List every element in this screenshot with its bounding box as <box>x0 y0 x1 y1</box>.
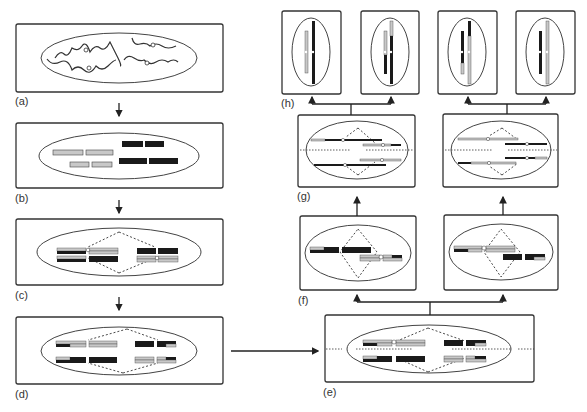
label-f: (f) <box>298 295 308 306</box>
chromatin-strands <box>47 38 178 72</box>
label-d: (d) <box>15 389 28 400</box>
panel-h-1 <box>282 11 341 94</box>
panel-h-2 <box>361 11 419 94</box>
panel-c <box>16 219 223 285</box>
panel-g-right <box>443 114 558 187</box>
panel-d <box>16 317 223 384</box>
label-h: (h) <box>281 98 294 109</box>
panel-a <box>16 24 223 92</box>
panel-g-left <box>298 115 415 187</box>
panel-b <box>16 123 223 188</box>
connector-g-h-right <box>468 97 546 114</box>
panel-h-4 <box>516 11 575 94</box>
panel-e <box>325 315 534 382</box>
meiosis-diagram <box>0 0 587 412</box>
panel-f-right <box>444 215 558 290</box>
label-g: (g) <box>297 191 310 202</box>
panel-f-left <box>300 216 416 290</box>
connector-g-h-left <box>312 97 391 115</box>
panel-h-3 <box>438 11 497 94</box>
label-c: (c) <box>15 290 28 301</box>
label-e: (e) <box>323 387 336 398</box>
connector-e-f <box>357 295 503 315</box>
label-b: (b) <box>15 193 28 204</box>
label-a: (a) <box>15 96 28 107</box>
